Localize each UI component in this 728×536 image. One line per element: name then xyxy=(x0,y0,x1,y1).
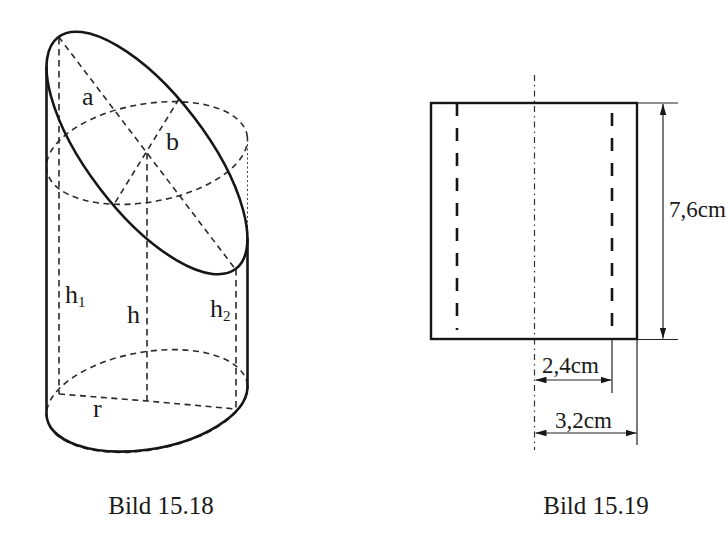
oblique-cut-cylinder-figure: a b h1 h h2 r Bild 15.18 xyxy=(11,1,282,519)
inner-offset-dimension-label: 2,4cm xyxy=(542,353,599,378)
label-a: a xyxy=(82,82,94,111)
label-h1-main: h xyxy=(65,280,78,309)
label-b: b xyxy=(166,127,179,156)
label-h2: h2 xyxy=(210,294,231,324)
label-h2-main: h xyxy=(210,294,223,323)
label-h1-sub: 1 xyxy=(78,294,86,310)
caption-left: Bild 15.18 xyxy=(108,492,214,519)
label-h2-sub: 2 xyxy=(223,308,231,324)
height-dimension-label: 7,6cm xyxy=(669,197,726,222)
label-h: h xyxy=(127,300,140,329)
label-h1: h1 xyxy=(65,280,86,310)
label-r: r xyxy=(93,394,102,423)
diagram-canvas: a b h1 h h2 r Bild 15.18 7,6cm 2,4cm 3,2… xyxy=(0,0,728,536)
rectangle-net-figure: 7,6cm 2,4cm 3,2cm Bild 15.19 xyxy=(431,75,726,519)
outer-offset-dimension-label: 3,2cm xyxy=(555,408,612,433)
caption-right: Bild 15.19 xyxy=(543,492,649,519)
